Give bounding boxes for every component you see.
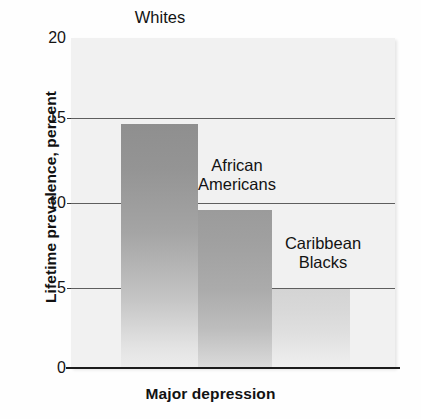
bar-whites[interactable]: [121, 124, 198, 368]
y-tick-label-10: 10: [30, 195, 66, 211]
y-tick-label-5: 5: [30, 280, 66, 296]
bar-label-african-americans: African Americans: [189, 156, 285, 194]
y-tick-label-0: 0: [30, 360, 66, 376]
bar-chart-figure: Lifetime prevalence, percent 20 15 10 5 …: [0, 0, 421, 419]
gridline-15: [71, 118, 395, 119]
x-axis-title: Major depression: [0, 385, 421, 403]
y-axis-ticks: 20 15 10 5 0: [26, 0, 66, 419]
y-tick-label-20: 20: [30, 30, 66, 46]
plot-inner: [71, 38, 395, 368]
bar-african-americans[interactable]: [198, 210, 272, 368]
bar-caribbean-blacks[interactable]: [272, 289, 350, 368]
y-tick-label-15: 15: [30, 110, 66, 126]
bar-label-whites: Whites: [111, 8, 209, 27]
bar-label-caribbean-blacks: Caribbean Blacks: [267, 234, 379, 272]
plot-area: Whites African Americans Caribbean Black…: [71, 38, 395, 368]
gridline-10: [71, 203, 395, 204]
x-axis-baseline: [66, 367, 400, 369]
